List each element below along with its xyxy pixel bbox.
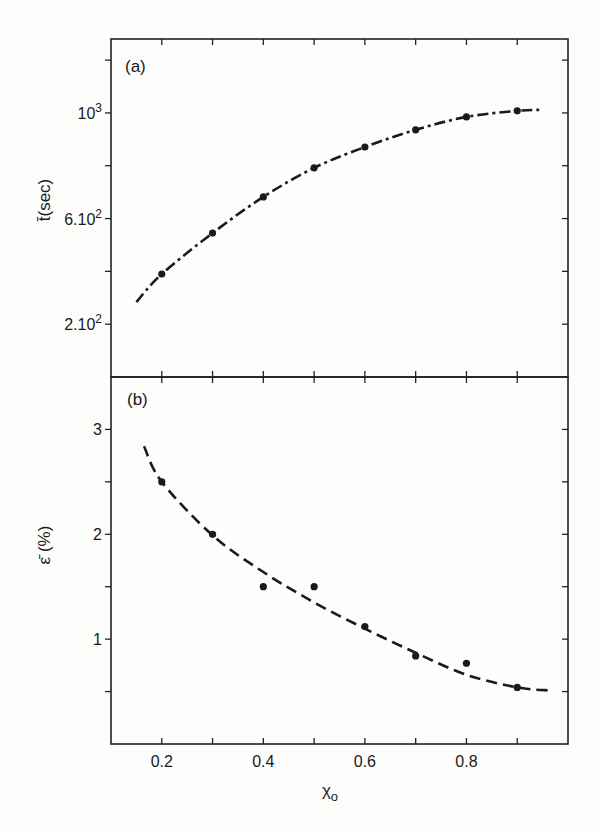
- y-tick-label: 103: [78, 101, 103, 122]
- data-point: [463, 113, 470, 120]
- y-tick-label-mantissa: 6.10: [64, 211, 95, 228]
- data-point: [260, 193, 267, 200]
- data-point: [514, 684, 521, 691]
- x-tick-label: 0.2: [151, 753, 173, 770]
- data-point: [158, 478, 165, 485]
- x-tick-label: 0.4: [252, 753, 274, 770]
- panel-a-tick-labels: 2.1026.102103: [64, 101, 102, 333]
- y-tick-label: 1: [93, 631, 102, 648]
- data-point: [311, 583, 318, 590]
- panel-b-points: [158, 478, 521, 691]
- y-tick-label: 2.102: [64, 312, 102, 333]
- panel-a-ticks: [105, 39, 568, 377]
- y-tick-label-mantissa: 2.10: [64, 316, 95, 333]
- y-tick-label: 2: [93, 526, 102, 543]
- panel-a-fit-curve: [136, 110, 542, 302]
- panel-a-points: [158, 107, 521, 277]
- panel-a: 2.1026.102103 (a) t̄(sec): [35, 39, 568, 377]
- data-point: [463, 660, 470, 667]
- data-point: [514, 107, 521, 114]
- data-point: [361, 623, 368, 630]
- panel-b-label: (b): [127, 390, 148, 409]
- data-point: [209, 531, 216, 538]
- panel-b-ticks: [105, 377, 568, 744]
- y-tick-label-exponent: 3: [95, 101, 102, 115]
- y-tick-label: 6.102: [64, 207, 102, 228]
- figure: 2.1026.102103 (a) t̄(sec) 1230.20.40.60.…: [0, 0, 599, 833]
- panel-a-frame: [111, 39, 568, 377]
- panel-b-y-axis-label: ε̄ (%): [35, 526, 54, 565]
- data-point: [412, 126, 419, 133]
- x-tick-label: 0.6: [354, 753, 376, 770]
- data-point: [412, 652, 419, 659]
- data-point: [209, 229, 216, 236]
- panel-a-label: (a): [125, 57, 146, 76]
- y-tick-label-exponent: 2: [95, 312, 102, 326]
- y-tick-label-exponent: 2: [95, 207, 102, 221]
- data-point: [158, 270, 165, 277]
- x-axis-label-subscript: o: [331, 789, 338, 804]
- x-axis-label: χo: [322, 781, 338, 804]
- panel-a-y-axis-label: t̄(sec): [35, 179, 54, 222]
- data-point: [260, 583, 267, 590]
- y-tick-label-mantissa: 10: [78, 105, 96, 122]
- y-tick-label: 3: [93, 421, 102, 438]
- panel-b-tick-labels: 1230.20.40.60.8: [93, 421, 478, 770]
- panel-b-frame: [111, 377, 568, 744]
- panel-b: 1230.20.40.60.8 (b) ε̄ (%): [35, 377, 568, 770]
- x-axis-label-main: χ: [322, 781, 331, 800]
- data-point: [311, 164, 318, 171]
- panel-b-fit-curve: [144, 446, 550, 690]
- data-point: [361, 143, 368, 150]
- x-tick-label: 0.8: [455, 753, 477, 770]
